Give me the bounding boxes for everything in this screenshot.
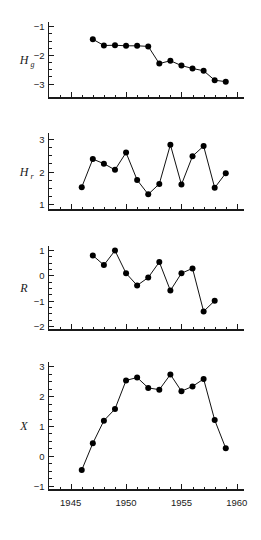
data-point-marker (134, 374, 140, 380)
panel-Hr: 321Hr (19, 133, 244, 210)
x-tick-label: 1955 (171, 497, 192, 508)
data-point-marker (101, 418, 107, 424)
panel-Hg: −1−2−3Hg (19, 21, 244, 98)
panel-y-axis-label: X (19, 419, 28, 433)
data-point-marker (134, 43, 140, 49)
data-point-marker (212, 185, 218, 191)
data-point-marker (79, 467, 85, 473)
axis-spine (49, 246, 244, 330)
data-point-marker (90, 156, 96, 162)
data-point-marker (156, 259, 162, 265)
data-point-marker (101, 262, 107, 268)
data-point-marker (123, 43, 129, 49)
data-point-marker (112, 42, 118, 48)
data-point-marker (134, 177, 140, 183)
data-point-marker (145, 275, 151, 281)
y-tick-label: −2 (34, 50, 45, 61)
data-point-marker (156, 181, 162, 187)
data-point-marker (223, 445, 229, 451)
data-point-marker (223, 79, 229, 85)
data-point-marker (223, 170, 229, 176)
y-tick-label: 3 (39, 361, 44, 372)
data-point-marker (178, 270, 184, 276)
data-point-marker (212, 77, 218, 83)
y-tick-label: 1 (39, 199, 44, 210)
data-point-marker (201, 143, 207, 149)
data-point-marker (145, 43, 151, 49)
data-point-marker (156, 387, 162, 393)
y-tick-label: −1 (34, 21, 45, 32)
panel-y-axis-label-subscript: r (31, 172, 35, 181)
data-point-marker (79, 184, 85, 190)
panel-y-axis-label: H (19, 165, 30, 179)
data-point-marker (178, 63, 184, 69)
data-point-marker (167, 58, 173, 64)
data-point-marker (101, 43, 107, 49)
data-point-marker (145, 191, 151, 197)
data-point-marker (90, 252, 96, 258)
panel-y-axis-label: R (19, 281, 28, 295)
x-tick-label: 1960 (226, 497, 247, 508)
x-tick-label: 1950 (115, 497, 136, 508)
data-point-marker (167, 142, 173, 148)
panel-X: 3210−1X (19, 361, 243, 492)
data-point-marker (201, 68, 207, 74)
multi-panel-time-series-chart: −1−2−3Hg321Hr10−1−2R3210−1X1945195019551… (0, 0, 261, 540)
figure-root: −1−2−3Hg321Hr10−1−2R3210−1X1945195019551… (0, 0, 261, 540)
data-point-marker (190, 65, 196, 71)
data-point-marker (167, 288, 173, 294)
y-tick-label: 0 (39, 270, 44, 281)
data-series-line (93, 251, 215, 312)
data-point-marker (123, 377, 129, 383)
data-point-marker (190, 153, 196, 159)
y-tick-label: 3 (39, 134, 44, 145)
data-point-marker (134, 282, 140, 288)
data-point-marker (212, 298, 218, 304)
y-tick-label: 1 (39, 245, 44, 256)
data-point-marker (112, 406, 118, 412)
y-tick-label: 2 (39, 167, 44, 178)
axis-spine (49, 362, 244, 490)
data-point-marker (112, 167, 118, 173)
y-tick-label: −2 (34, 321, 45, 332)
panel-R: 10−1−2R (19, 245, 243, 332)
data-point-marker (123, 270, 129, 276)
panel-y-axis-label: H (19, 53, 30, 67)
data-point-marker (190, 383, 196, 389)
axis-spine (49, 22, 244, 98)
data-point-marker (178, 388, 184, 394)
y-tick-label: 0 (39, 451, 44, 462)
axis-spine (49, 133, 244, 210)
data-point-marker (201, 376, 207, 382)
data-point-marker (201, 308, 207, 314)
data-point-marker (145, 385, 151, 391)
data-point-marker (156, 61, 162, 67)
y-tick-label: −1 (34, 481, 45, 492)
data-point-marker (123, 150, 129, 156)
y-tick-label: 1 (39, 421, 44, 432)
y-tick-label: 2 (39, 391, 44, 402)
data-point-marker (101, 161, 107, 167)
y-tick-label: −3 (34, 79, 45, 90)
data-point-marker (90, 36, 96, 42)
data-point-marker (90, 440, 96, 446)
data-point-marker (167, 372, 173, 378)
data-point-marker (112, 248, 118, 254)
panel-y-axis-label-subscript: g (31, 60, 35, 69)
data-point-marker (178, 182, 184, 188)
data-series-line (82, 145, 226, 195)
x-tick-label: 1945 (60, 497, 81, 508)
x-axis-tick-labels: 1945195019551960 (60, 497, 247, 508)
data-point-marker (190, 265, 196, 271)
data-point-marker (212, 417, 218, 423)
y-tick-label: −1 (34, 296, 45, 307)
